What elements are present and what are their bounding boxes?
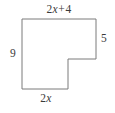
dimension-label-bottom: 2x <box>24 93 68 105</box>
left-value: 9 <box>10 47 16 59</box>
dimension-label-left: 9 <box>10 48 16 60</box>
right-value: 5 <box>101 32 107 44</box>
dimension-label-right: 5 <box>101 33 107 45</box>
bottom-variable: x <box>46 92 51 104</box>
top-operator: + <box>58 3 66 15</box>
dimension-label-top: 2x+4 <box>0 4 115 16</box>
top-constant: 4 <box>66 3 72 15</box>
l-shape-outline <box>22 19 96 89</box>
geometry-figure: 2x+4 5 9 2x <box>0 0 115 113</box>
